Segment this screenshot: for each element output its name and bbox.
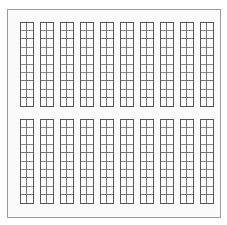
bay-cell bbox=[160, 72, 167, 80]
bay-cell bbox=[140, 169, 147, 177]
bay-cell bbox=[67, 127, 74, 135]
bay-cell bbox=[100, 153, 107, 161]
bay-cell bbox=[87, 72, 94, 80]
bay-cell bbox=[140, 153, 147, 161]
bay-cell bbox=[40, 39, 47, 47]
bay-cell bbox=[47, 178, 54, 186]
bay-cell bbox=[187, 161, 194, 169]
bay-cell bbox=[40, 127, 47, 135]
bay-cell bbox=[40, 72, 47, 80]
bay-cell bbox=[27, 178, 34, 186]
bay-cell bbox=[180, 22, 187, 30]
bay-cell bbox=[107, 127, 114, 135]
bay-cell bbox=[180, 98, 187, 106]
bay-cell bbox=[60, 186, 67, 194]
bay-cell bbox=[107, 153, 114, 161]
bay-cell bbox=[60, 39, 67, 47]
bay-cell bbox=[140, 186, 147, 194]
bay-cell bbox=[40, 178, 47, 186]
bay-cell bbox=[27, 30, 34, 38]
plan-drawing bbox=[0, 0, 227, 225]
bay-column-1 bbox=[20, 119, 33, 203]
bay-column-9 bbox=[180, 22, 193, 106]
bay-cell bbox=[207, 195, 214, 203]
bay-cell bbox=[27, 153, 34, 161]
bay-cell bbox=[60, 64, 67, 72]
bay-cell bbox=[140, 89, 147, 97]
bay-cell bbox=[120, 39, 127, 47]
bay-cell bbox=[200, 153, 207, 161]
bay-cell bbox=[67, 39, 74, 47]
bay-cell bbox=[100, 195, 107, 203]
bay-cell bbox=[120, 136, 127, 144]
bay-cell bbox=[200, 195, 207, 203]
bay-cell bbox=[127, 72, 134, 80]
bay-cell bbox=[107, 22, 114, 30]
bay-cell bbox=[107, 178, 114, 186]
bay-cell bbox=[160, 136, 167, 144]
bay-column-5 bbox=[100, 22, 113, 106]
bay-cell bbox=[127, 136, 134, 144]
bay-cell bbox=[100, 119, 107, 127]
bay-cell bbox=[147, 195, 154, 203]
bay-column-2 bbox=[40, 119, 53, 203]
bay-cell bbox=[40, 195, 47, 203]
bay-cell bbox=[200, 169, 207, 177]
bay-cell bbox=[187, 89, 194, 97]
bay-cell bbox=[87, 144, 94, 152]
bay-cell bbox=[47, 81, 54, 89]
bay-cell bbox=[80, 39, 87, 47]
bay-cell bbox=[200, 39, 207, 47]
bay-cell bbox=[187, 30, 194, 38]
bay-cell bbox=[20, 98, 27, 106]
bay-cell bbox=[147, 98, 154, 106]
bay-cell bbox=[60, 153, 67, 161]
bay-cell bbox=[127, 161, 134, 169]
bay-cell bbox=[60, 144, 67, 152]
bay-cell bbox=[187, 186, 194, 194]
bay-cell bbox=[140, 39, 147, 47]
bay-cell bbox=[87, 22, 94, 30]
bay-column-2 bbox=[40, 22, 53, 106]
bay-cell bbox=[120, 161, 127, 169]
bay-cell bbox=[147, 81, 154, 89]
bay-cell bbox=[167, 81, 174, 89]
bay-cell bbox=[160, 161, 167, 169]
bay-column-3 bbox=[60, 119, 73, 203]
bay-cell bbox=[167, 64, 174, 72]
bay-cell bbox=[80, 119, 87, 127]
bay-cell bbox=[27, 56, 34, 64]
bay-cell bbox=[80, 64, 87, 72]
bay-cell bbox=[120, 81, 127, 89]
bay-cell bbox=[147, 186, 154, 194]
bay-column-10 bbox=[200, 22, 213, 106]
bay-cell bbox=[60, 169, 67, 177]
bay-cell bbox=[107, 89, 114, 97]
bay-cell bbox=[20, 64, 27, 72]
bay-cell bbox=[140, 30, 147, 38]
bay-cell bbox=[47, 89, 54, 97]
bay-cell bbox=[47, 64, 54, 72]
bay-cell bbox=[47, 136, 54, 144]
bay-cell bbox=[140, 127, 147, 135]
bay-cell bbox=[127, 127, 134, 135]
bay-cell bbox=[127, 119, 134, 127]
bay-cell bbox=[187, 127, 194, 135]
bay-cell bbox=[200, 186, 207, 194]
bay-cell bbox=[140, 64, 147, 72]
bay-cell bbox=[87, 195, 94, 203]
bay-cell bbox=[167, 178, 174, 186]
bay-cell bbox=[107, 136, 114, 144]
bay-cell bbox=[60, 30, 67, 38]
bay-cell bbox=[167, 195, 174, 203]
bay-cell bbox=[207, 22, 214, 30]
bay-cell bbox=[60, 195, 67, 203]
bay-cell bbox=[100, 56, 107, 64]
bay-cell bbox=[107, 30, 114, 38]
bay-cell bbox=[187, 178, 194, 186]
bay-cell bbox=[200, 119, 207, 127]
bay-cell bbox=[20, 30, 27, 38]
plan-canvas bbox=[0, 0, 227, 225]
bay-cell bbox=[127, 178, 134, 186]
bay-cell bbox=[20, 178, 27, 186]
